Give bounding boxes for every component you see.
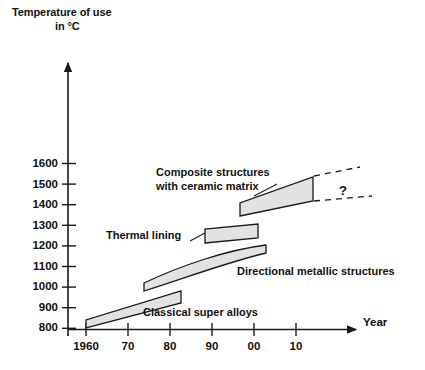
band-label-composite-line1: Composite structures [156,166,270,179]
y-axis-title-line2: in °C [55,20,80,33]
band-label-directional-metallic: Directional metallic structures [237,265,395,278]
chart-container: Temperature of use in °C 1600 1500 1400 … [0,0,425,370]
x-tick-label-00: 00 [235,340,273,353]
y-tick-label-800: 800 [20,321,58,334]
x-tick-label-70: 70 [109,340,147,353]
y-tick-label-1000: 1000 [20,280,58,293]
y-tick-label-1100: 1100 [20,260,58,273]
thermal-label-leader-line [190,233,205,241]
y-tick-label-1200: 1200 [20,239,58,252]
x-tick-label-90: 90 [193,340,231,353]
y-axis-title-line1: Temperature of use [12,6,111,19]
question-mark-annotation: ? [339,184,347,199]
x-tick-label-1960: 1960 [64,340,108,353]
projection-line-upper [314,167,360,176]
y-tick-marks [62,164,76,329]
band-thermal-lining [205,224,258,243]
y-tick-label-900: 900 [20,301,58,314]
x-tick-label-80: 80 [151,340,189,353]
band-label-classical-super-alloys: Classical super alloys [143,306,258,319]
y-tick-label-1300: 1300 [20,219,58,232]
band-label-thermal-lining: Thermal lining [106,229,181,242]
y-tick-label-1400: 1400 [20,198,58,211]
x-axis-name: Year [363,316,387,329]
band-label-composite-line2: with ceramic matrix [156,180,259,193]
y-tick-label-1500: 1500 [20,178,58,191]
y-tick-label-1600: 1600 [20,157,58,170]
x-tick-label-10: 10 [277,340,315,353]
